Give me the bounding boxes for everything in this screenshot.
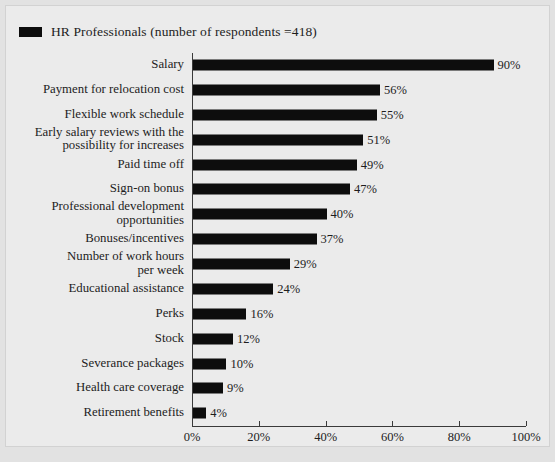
category-label: Professional development opportunities (51, 201, 184, 228)
legend-label: HR Professionals (number of respondents … (51, 24, 317, 40)
bar-value-label: 37% (321, 232, 344, 247)
bar-row: Paid time off49% (192, 152, 526, 176)
bar-value-label: 12% (237, 331, 260, 346)
bar-row: Payment for relocation cost56% (192, 78, 526, 102)
bar-value-label: 90% (498, 58, 521, 73)
category-label: Early salary reviews with the possibilit… (35, 126, 184, 153)
bar (193, 383, 223, 394)
bar-value-label: 29% (294, 257, 317, 272)
x-tick-label: 60% (381, 430, 404, 445)
bar-row: Salary90% (192, 53, 526, 77)
category-label: Educational assistance (69, 282, 185, 296)
bar-row: Health care coverage9% (192, 376, 526, 400)
category-label: Severance packages (81, 357, 184, 371)
bar-row: Bonuses/incentives37% (192, 227, 526, 251)
category-label: Number of work hours per week (67, 250, 184, 277)
bar-row: Perks16% (192, 302, 526, 326)
category-label: Sign-on bonus (110, 183, 184, 197)
x-tick-mark (259, 421, 260, 426)
bar (193, 134, 363, 145)
x-tick-label: 100% (511, 430, 540, 445)
bar (193, 308, 246, 319)
bar-value-label: 49% (361, 157, 384, 172)
bar (193, 159, 357, 170)
chart-figure: HR Professionals (number of respondents … (5, 5, 550, 447)
bar (193, 109, 377, 120)
category-label: Perks (156, 307, 184, 321)
bar-value-label: 9% (227, 381, 244, 396)
category-label: Payment for relocation cost (43, 83, 184, 97)
category-label: Paid time off (117, 158, 184, 172)
x-tick-label: 0% (184, 430, 201, 445)
category-label: Flexible work schedule (65, 108, 184, 122)
bar-value-label: 16% (250, 306, 273, 321)
bar (193, 259, 290, 270)
category-label: Salary (151, 58, 184, 72)
bar (193, 333, 233, 344)
bar (193, 283, 273, 294)
bar-value-label: 10% (230, 356, 253, 371)
bar-row: Sign-on bonus47% (192, 177, 526, 201)
bar (193, 358, 226, 369)
plot-area: Salary90%Payment for relocation cost56%F… (192, 53, 526, 426)
bar-row: Educational assistance24% (192, 277, 526, 301)
x-tick-label: 40% (314, 430, 337, 445)
chart-legend: HR Professionals (number of respondents … (19, 23, 317, 41)
bar-value-label: 56% (384, 83, 407, 98)
bar (193, 85, 380, 96)
category-label: Health care coverage (76, 382, 184, 396)
bar (193, 209, 327, 220)
bar-value-label: 55% (381, 107, 404, 122)
bar (193, 60, 494, 71)
x-tick-mark (326, 421, 327, 426)
x-tick-mark (392, 421, 393, 426)
bar (193, 408, 206, 419)
bar (193, 234, 317, 245)
bar-row: Retirement benefits4% (192, 401, 526, 425)
bar-value-label: 4% (210, 406, 227, 421)
category-label: Stock (155, 332, 184, 346)
x-tick-label: 20% (247, 430, 270, 445)
category-label: Retirement benefits (83, 406, 184, 420)
x-tick-mark (459, 421, 460, 426)
bar-row: Stock12% (192, 327, 526, 351)
bar-row: Severance packages10% (192, 351, 526, 375)
bar-value-label: 40% (331, 207, 354, 222)
legend-color-swatch (19, 27, 42, 37)
x-axis-line (192, 426, 526, 427)
bar-row: Early salary reviews with the possibilit… (192, 128, 526, 152)
bar-value-label: 51% (367, 132, 390, 147)
x-tick-mark (526, 421, 527, 426)
x-tick-mark (192, 421, 193, 426)
bar-value-label: 47% (354, 182, 377, 197)
x-tick-label: 80% (448, 430, 471, 445)
bar-row: Professional development opportunities40… (192, 202, 526, 226)
bar-row: Number of work hours per week29% (192, 252, 526, 276)
bar-row: Flexible work schedule55% (192, 103, 526, 127)
category-label: Bonuses/incentives (85, 232, 184, 246)
bar-value-label: 24% (277, 281, 300, 296)
bar (193, 184, 350, 195)
